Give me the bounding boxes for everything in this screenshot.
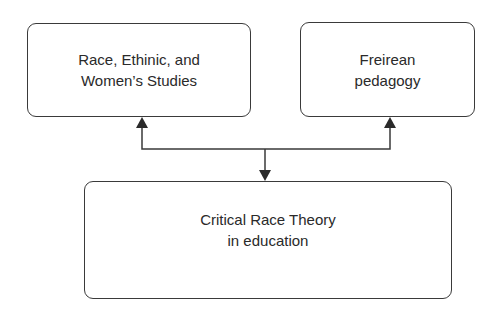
node-freirean-pedagogy: Freirean pedagogy <box>300 22 475 117</box>
node-label-line: in education <box>200 230 336 251</box>
node-label-line: Critical Race Theory <box>200 209 336 230</box>
arrow-down-icon <box>259 170 271 181</box>
node-label-line: Women’s Studies <box>78 70 200 91</box>
node-race-ethnic-womens-studies: Race, Ethinic, and Women’s Studies <box>27 23 251 117</box>
node-critical-race-theory: Critical Race Theory in education <box>84 181 452 299</box>
arrow-up-icon <box>136 117 148 128</box>
arrow-up-icon <box>384 117 396 128</box>
node-label-line: Freirean <box>355 49 421 70</box>
node-label-line: pedagogy <box>355 70 421 91</box>
node-label-line: Race, Ethinic, and <box>78 49 200 70</box>
